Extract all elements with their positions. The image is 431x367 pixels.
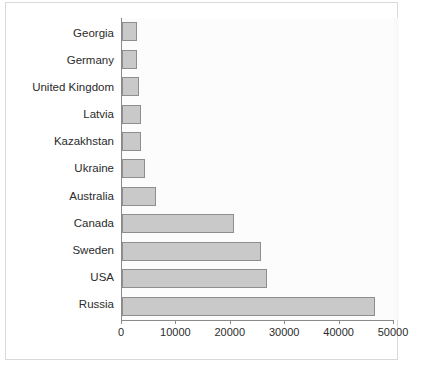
x-axis-tick	[393, 320, 394, 324]
bar-row	[122, 183, 394, 210]
x-axis-tick-label: 0	[118, 326, 124, 338]
y-axis-tick-label: Canada	[8, 210, 118, 237]
bar[interactable]	[122, 50, 137, 69]
bar-row	[122, 265, 394, 292]
bar[interactable]	[122, 159, 145, 178]
bar-row	[122, 18, 394, 45]
y-axis-tick-label: Germany	[8, 47, 118, 74]
bar[interactable]	[122, 297, 375, 316]
bar-row	[122, 128, 394, 155]
bar[interactable]	[122, 187, 156, 206]
bar[interactable]	[122, 22, 137, 41]
bar-row	[122, 293, 394, 320]
x-axis-tick-label: 50000	[378, 326, 409, 338]
bar[interactable]	[122, 269, 267, 288]
x-axis-tick	[284, 320, 285, 324]
y-axis-tick-label: Kazakhstan	[8, 128, 118, 155]
y-axis-category-labels: Georgia Germany United Kingdom Latvia Ka…	[8, 20, 118, 318]
bar-row	[122, 210, 394, 237]
bar-row	[122, 155, 394, 182]
y-axis-tick-label: Ukraine	[8, 155, 118, 182]
bar-row	[122, 46, 394, 73]
y-axis-tick-label: Latvia	[8, 101, 118, 128]
bar-row	[122, 73, 394, 100]
x-axis-tick	[339, 320, 340, 324]
x-axis-tick	[121, 320, 122, 324]
bar-row	[122, 101, 394, 128]
y-axis-tick-label: USA	[8, 264, 118, 291]
bar-series	[122, 18, 394, 320]
x-axis-tick-label: 40000	[323, 326, 354, 338]
x-axis-tick	[230, 320, 231, 324]
bar[interactable]	[122, 242, 261, 261]
plot-area	[121, 18, 394, 321]
bar-row	[122, 238, 394, 265]
bar[interactable]	[122, 77, 139, 96]
x-axis-tick	[175, 320, 176, 324]
bar[interactable]	[122, 214, 234, 233]
bar[interactable]	[122, 132, 141, 151]
x-axis-tick-label: 30000	[269, 326, 300, 338]
y-axis-tick-label: Russia	[8, 291, 118, 318]
y-axis-tick-label: United Kingdom	[8, 74, 118, 101]
bar-chart: Georgia Germany United Kingdom Latvia Ka…	[0, 0, 431, 367]
y-axis-tick-label: Georgia	[8, 20, 118, 47]
bar[interactable]	[122, 105, 141, 124]
y-axis-tick-label: Sweden	[8, 237, 118, 264]
y-axis-tick-label: Australia	[8, 183, 118, 210]
x-axis: 01000020000300004000050000	[121, 320, 393, 344]
x-axis-tick-label: 20000	[215, 326, 246, 338]
x-axis-tick-label: 10000	[160, 326, 191, 338]
